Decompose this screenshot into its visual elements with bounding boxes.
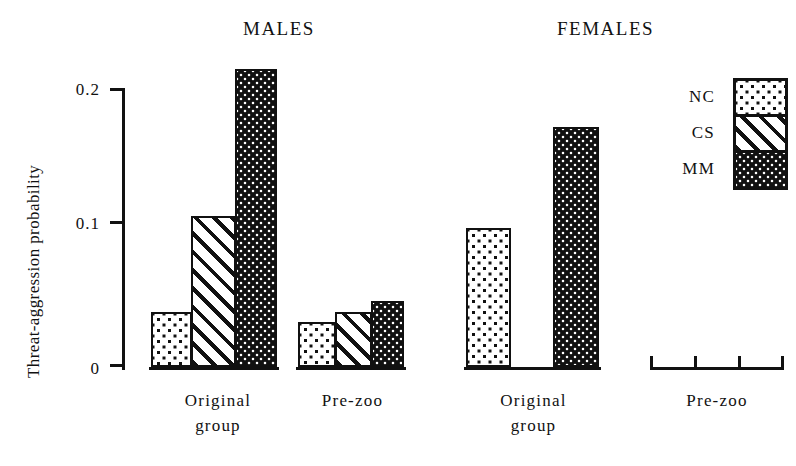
bar-chart: MALES FEMALES Threat-aggression probabil…	[0, 0, 796, 466]
y-axis-tick-0.2	[110, 88, 125, 91]
bar-females-prezoo-left-edge	[650, 356, 653, 368]
y-axis-label: Threat-aggression probability	[24, 165, 44, 378]
legend-label-mm: MM	[648, 159, 715, 179]
bar-males-original-mm	[235, 69, 277, 367]
group-label-females-original: Original group	[466, 388, 601, 438]
legend-label-cs: CS	[655, 123, 715, 143]
y-axis-tick-0	[110, 364, 125, 367]
legend-label-nc: NC	[655, 87, 715, 107]
legend-swatch-cs	[736, 114, 785, 153]
y-axis-spine	[122, 88, 125, 370]
bar-females-prezoo-cs	[738, 356, 741, 368]
group-label-males-prezoo: Pre-zoo	[295, 388, 410, 413]
bar-males-prezoo-nc	[298, 322, 336, 367]
bar-females-prezoo-mm	[781, 356, 784, 368]
bar-males-original-nc	[151, 312, 192, 367]
legend-swatch-mm	[736, 153, 785, 187]
y-tick-label-0: 0	[40, 359, 100, 379]
bar-males-original-cs	[191, 216, 236, 367]
y-tick-label-0.2: 0.2	[40, 80, 100, 100]
baseline-males-original	[149, 367, 279, 370]
legend-swatch-nc	[736, 81, 785, 114]
bar-males-prezoo-mm	[371, 301, 404, 367]
baseline-females-original	[464, 367, 601, 370]
group-label-males-original: Original group	[153, 388, 283, 438]
bar-females-original-nc	[466, 228, 511, 367]
panel-title-males: MALES	[243, 18, 315, 40]
y-tick-label-0.1: 0.1	[40, 214, 100, 234]
baseline-females-prezoo	[650, 367, 784, 370]
group-label-females-prezoo: Pre-zoo	[650, 388, 784, 413]
bar-males-prezoo-cs	[335, 312, 372, 367]
bar-females-prezoo-nc	[694, 356, 697, 368]
baseline-males-prezoo	[296, 367, 406, 370]
legend-swatch-box	[733, 78, 788, 190]
y-axis-tick-0.1	[110, 221, 125, 224]
bar-females-original-mm	[553, 127, 599, 367]
panel-title-females: FEMALES	[557, 18, 654, 40]
